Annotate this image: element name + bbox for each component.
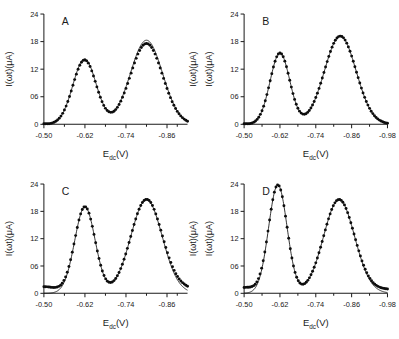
y-tick-label: 0: [34, 289, 38, 298]
x-tick-label: -0.50: [36, 131, 53, 140]
x-tick-label: -0.86: [159, 300, 176, 309]
x-tick-label: -0.98: [379, 131, 396, 140]
experiment-markers: [42, 42, 189, 125]
x-tick-label: -0.62: [271, 300, 288, 309]
x-axis-label: Edc(V): [302, 318, 328, 331]
panel-A: 006121824-0.50-0.62-0.74-0.86AI(ωt)(μA)I…: [0, 0, 200, 170]
y-axis-label: I(ωt)(μA): [204, 52, 214, 87]
x-tick-label: -0.74: [307, 131, 324, 140]
x-tick-label: -0.50: [35, 300, 52, 309]
panel-letter: C: [62, 185, 70, 197]
panel-C: 006121824-0.50-0.62-0.74-0.86CI(ωt)(μA)I…: [0, 170, 200, 339]
x-tick-label: -0.86: [159, 131, 176, 140]
y-axis-label: I(ωt)(μA): [204, 221, 214, 256]
y-tick-label: 24: [30, 10, 38, 19]
x-tick-label: -0.62: [77, 300, 94, 309]
x-tick-label: -0.74: [118, 300, 135, 309]
y-tick-label: 12: [30, 235, 38, 244]
y-tick-label: 18: [230, 207, 238, 216]
y-tick-label: 24: [230, 10, 238, 19]
y-tick-label: 06: [30, 92, 38, 101]
panel-letter: D: [262, 185, 270, 197]
x-tick-label: -0.62: [77, 131, 94, 140]
y-tick-label: 24: [230, 180, 238, 189]
y-tick-label: 18: [30, 207, 38, 216]
y-tick-label: 0: [234, 289, 238, 298]
theory-curve: [244, 36, 387, 124]
theory-curve: [44, 40, 188, 124]
x-tick-label: -0.50: [235, 131, 252, 140]
y-tick-label: 06: [30, 262, 38, 271]
x-axis-label: Edc(V): [103, 318, 129, 331]
x-tick-label: -0.98: [379, 300, 396, 309]
x-tick-label: -0.62: [271, 131, 288, 140]
y-tick-label: 12: [30, 65, 38, 74]
x-axis-label: Edc(V): [103, 148, 129, 161]
y-tick-label: 12: [230, 235, 238, 244]
y-tick-label: 18: [230, 37, 238, 46]
panel-letter: B: [262, 15, 269, 27]
y-axis-label: I(ωt)(μA): [4, 52, 14, 87]
panel-D: 006121824-0.50-0.62-0.74-0.86-0.98DI(ωt)…: [200, 170, 399, 339]
y-tick-label: 0: [234, 120, 238, 129]
panel-B: 006121824-0.50-0.62-0.74-0.86-0.98BI(ωt)…: [200, 0, 399, 170]
x-tick-label: -0.86: [343, 131, 360, 140]
x-axis-label: Edc(V): [302, 148, 328, 161]
x-tick-label: -0.74: [307, 300, 324, 309]
x-tick-label: -0.86: [343, 300, 360, 309]
y-axis-label: I(ωt)(μA): [4, 221, 14, 256]
panel-letter: A: [62, 16, 69, 27]
x-tick-label: -0.74: [118, 131, 135, 140]
y-tick-label: 12: [230, 65, 238, 74]
y-tick-label: 18: [30, 37, 38, 46]
y-tick-label: 24: [30, 180, 38, 189]
y-tick-label: 06: [230, 92, 238, 101]
experiment-markers: [242, 35, 388, 126]
y-tick-label: 06: [230, 262, 238, 271]
y-tick-label: 0: [34, 120, 38, 129]
experiment-markers: [42, 198, 189, 289]
right-y-axis-label: I(ωt)(μA): [188, 221, 198, 256]
figure-container: 006121824-0.50-0.62-0.74-0.86AI(ωt)(μA)I…: [0, 0, 399, 339]
theory-curve: [244, 185, 387, 293]
right-y-axis-label: I(ωt)(μA): [188, 52, 198, 87]
x-tick-label: -0.50: [235, 300, 252, 309]
